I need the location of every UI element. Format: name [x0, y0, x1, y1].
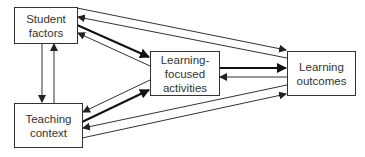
node-student-factors: Student factors	[14, 7, 78, 44]
node-label-line: Learning	[297, 60, 347, 74]
node-teaching-context: Teaching context	[14, 103, 83, 148]
arrow-student-to-activities	[77, 25, 149, 57]
node-label-line: outcomes	[297, 74, 347, 88]
node-label-line: Learning-	[161, 53, 210, 67]
node-learning-outcomes: Learning outcomes	[287, 51, 356, 96]
arrow-teaching-to-outcomes	[82, 94, 286, 138]
arrow-activities-to-student	[78, 33, 150, 66]
node-label-line: Teaching	[25, 112, 71, 126]
node-label-line: focused	[161, 67, 210, 81]
node-label-line: factors	[26, 26, 66, 40]
arrow-student-to-outcomes	[77, 8, 286, 50]
node-learning-focused-activities: Learning- focused activities	[150, 51, 220, 96]
arrow-teaching-to-activities	[82, 90, 149, 122]
node-label-line: activities	[161, 81, 210, 95]
arrow-activities-to-teaching	[83, 80, 150, 112]
node-label-line: Student	[26, 12, 66, 26]
node-label-line: context	[25, 126, 71, 140]
